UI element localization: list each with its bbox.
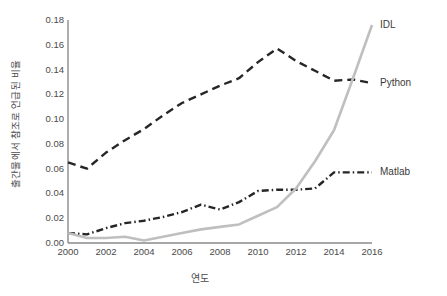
series-line-idl: [68, 25, 372, 241]
x-tick-label: 2016: [352, 247, 392, 257]
x-axis-title: 연도: [0, 270, 400, 285]
series-label-python: Python: [380, 78, 411, 88]
series-line-python: [68, 48, 372, 168]
x-tick-label: 2004: [124, 247, 164, 257]
line-chart-figure: 출간물에서 참조로 언급된 비율 0.000.020.040.060.080.1…: [0, 0, 447, 296]
series-label-idl: IDL: [380, 20, 396, 30]
x-tick-label: 2008: [200, 247, 240, 257]
x-tick-label: 2010: [238, 247, 278, 257]
y-axis-title: 출간물에서 참조로 언급된 비율: [2, 0, 28, 248]
y-tick-label: 0.08: [30, 139, 64, 149]
y-tick-label: 0.02: [30, 213, 64, 223]
x-axis-tick-labels: 200020022004200620082010201220142016: [0, 247, 447, 263]
x-tick-label: 2012: [276, 247, 316, 257]
series-label-matlab: Matlab: [380, 167, 410, 177]
x-tick-label: 2000: [48, 247, 88, 257]
y-tick-label: 0.16: [30, 40, 64, 50]
y-axis-title-text: 출간물에서 참조로 언급된 비율: [8, 60, 22, 188]
y-tick-label: 0.04: [30, 189, 64, 199]
y-tick-label: 0.10: [30, 114, 64, 124]
x-tick-label: 2014: [314, 247, 354, 257]
x-tick-label: 2002: [86, 247, 126, 257]
x-tick-label: 2006: [162, 247, 202, 257]
y-tick-label: 0.12: [30, 90, 64, 100]
series-line-matlab: [68, 172, 372, 234]
y-tick-label: 0.14: [30, 65, 64, 75]
series-paths: [68, 25, 372, 241]
y-tick-label: 0.18: [30, 15, 64, 25]
y-tick-label: 0.06: [30, 164, 64, 174]
axis-lines: [68, 20, 372, 243]
